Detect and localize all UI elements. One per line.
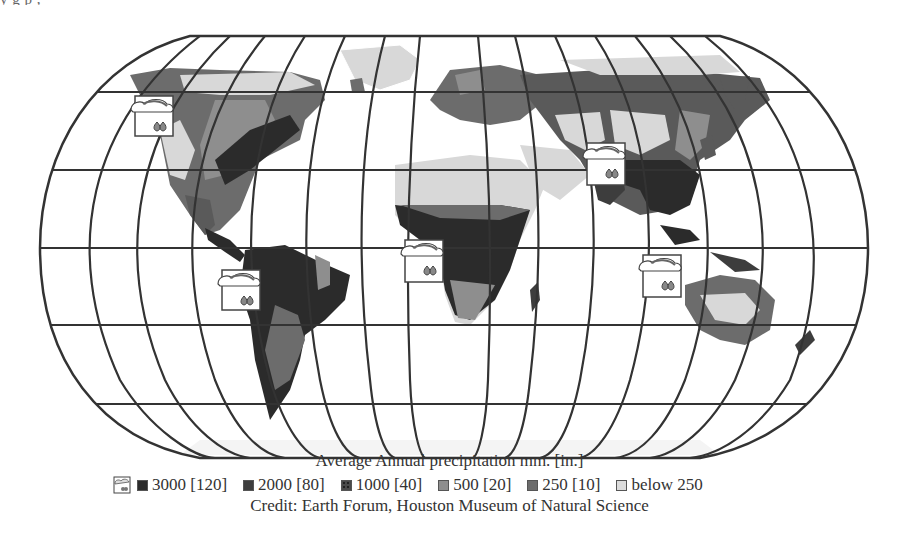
indonesia-rain-icon <box>639 255 681 297</box>
legend-item-3000: 3000 [120] <box>137 475 227 495</box>
swatch-2000 <box>243 480 254 491</box>
swatch-below-250 <box>616 480 627 491</box>
south-asia-rain-icon <box>583 143 625 185</box>
swatch-500 <box>438 480 449 491</box>
legend-item-2000: 2000 [80] <box>243 475 325 495</box>
legend-item-500: 500 [20] <box>438 475 511 495</box>
legend: 3000 [120] 2000 [80] 1000 [40] 500 [20] … <box>113 474 719 496</box>
legend-item-below-250: below 250 <box>616 475 702 495</box>
legend-rain-cloud-icon <box>113 476 131 494</box>
swatch-1000 <box>341 480 352 491</box>
legend-item-250: 250 [10] <box>527 475 600 495</box>
north-america-rain-icon <box>131 96 173 136</box>
world-precipitation-map <box>0 0 899 460</box>
swatch-250 <box>527 480 538 491</box>
south-america-rain-icon <box>218 270 260 310</box>
legend-title: Average Annual precipitation mm. [in.] <box>0 451 899 471</box>
credit-line: Credit: Earth Forum, Houston Museum of N… <box>0 496 899 516</box>
landmasses <box>130 45 815 455</box>
legend-item-1000: 1000 [40] <box>341 475 423 495</box>
swatch-3000 <box>137 480 148 491</box>
africa-rain-icon <box>401 240 443 282</box>
